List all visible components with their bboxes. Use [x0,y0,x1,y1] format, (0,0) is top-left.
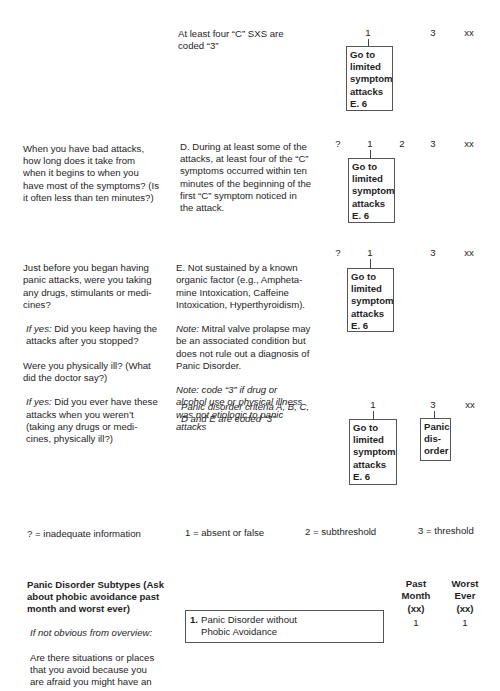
subtype-item-label: Panic Disorder without Phobic Avoidance [201,614,297,639]
goto-limited-symptom-box: Go to limited symptom attacks E. 6 [346,46,393,111]
col-header-worst-ever: Worst Ever (xx) [445,578,485,615]
legend-absent: 1 = absent or false [185,527,264,539]
criterion-d-text: D. During at least some of the attacks, … [180,141,330,214]
legend-threshold: 3 = threshold [418,525,474,537]
subtypes-title: Panic Disorder Subtypes (Ask about phobi… [27,579,177,616]
code-3[interactable]: 3 [426,399,440,411]
criterion-c-summary-text: At least four “C” SXS are coded “3” [178,28,338,52]
note-label: Note: [176,323,199,334]
question-e: Just before you began having panic attac… [23,250,173,457]
legend-subthreshold: 2 = subthreshold [305,526,376,538]
code-1[interactable]: 1 [363,138,377,150]
question-e-part1: Just before you began having panic attac… [23,262,173,311]
code-xx[interactable]: xx [462,27,476,39]
code-1[interactable]: 1 [366,399,380,411]
code-past-month[interactable]: 1 [409,617,423,629]
subtype-item-number: 1. [190,614,201,626]
code-3[interactable]: 3 [426,138,440,150]
goto-limited-symptom-box: Go to limited symptom attacks E. 6 [347,268,394,332]
code-unknown[interactable]: ? [331,247,345,259]
code-worst-ever[interactable]: 1 [458,617,472,629]
if-yes-label: If yes: [26,323,52,334]
col-header-past-month: Past Month (xx) [396,578,436,615]
code-unknown[interactable]: ? [331,138,345,150]
connector-line [370,259,371,268]
code-xx[interactable]: xx [462,247,476,259]
code-xx[interactable]: xx [462,138,476,150]
subtype-item-box: 1.Panic Disorder without Phobic Avoidanc… [185,610,384,643]
question-e-part2: If yes: Did you keep having the attacks … [23,323,173,347]
subtypes-prompt: If not obvious from overview: Are there … [30,615,180,691]
legend: ? = inadequate information 1 = absent or… [0,527,500,541]
question-e-part4: If yes: Did you ever have these attacks … [23,396,173,445]
panic-disorder-box: Panic dis- order [420,418,451,461]
subtypes-prompt-text: Are there situations or places that you … [30,652,180,689]
goto-limited-symptom-box: Go to limited symptom attacks E. 6 [348,158,395,223]
code-1[interactable]: 1 [363,247,377,259]
criterion-e-note1: Note: Mitral valve prolapse may be an as… [176,323,336,372]
goto-limited-symptom-box: Go to limited symptom attacks E. 6 [349,419,397,485]
code-xx[interactable]: xx [463,399,477,411]
subtypes-prompt-prefix: If not obvious from overview: [30,627,180,639]
legend-inadequate: ? = inadequate information [27,528,141,540]
question-d: When you have bad attacks, how long does… [23,143,173,204]
code-1[interactable]: 1 [361,27,375,39]
code-3[interactable]: 3 [426,27,440,39]
panic-criteria-summary-text: Panic disorder criteria A, B, C, D and E… [181,401,341,425]
code-2[interactable]: 2 [395,138,409,150]
code-3[interactable]: 3 [426,247,440,259]
if-yes-label: If yes: [26,396,52,407]
criterion-e-main: E. Not sustained by a known organic fact… [176,262,336,311]
question-e-part3: Were you physically ill? (What did the d… [23,360,173,384]
